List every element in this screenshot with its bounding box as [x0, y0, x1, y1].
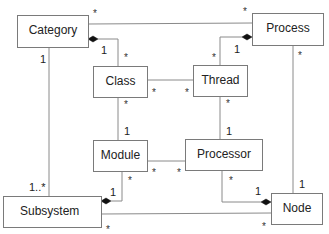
mult-module-processor-a: * — [152, 168, 156, 178]
composition-diamond-process — [242, 34, 252, 40]
class-name: Class — [105, 74, 135, 97]
mult-class-thread-b: * — [185, 88, 189, 98]
mult-class-thread-a: * — [152, 88, 156, 98]
mult-category-class-star: * — [124, 53, 128, 63]
composition-diamond-subsystem — [101, 198, 111, 204]
class-category: Category — [17, 15, 89, 48]
mult-category-subsystem-1: 1 — [40, 54, 46, 65]
class-node: Node — [271, 193, 323, 225]
mult-category-process-a: * — [93, 9, 97, 19]
class-process: Process — [252, 13, 324, 46]
mult-node-processor-star: * — [229, 176, 233, 186]
class-name: Category — [29, 23, 78, 47]
class-class: Class — [93, 66, 148, 98]
mult-category-subsystem-many: 1..* — [29, 182, 46, 193]
class-name: Subsystem — [20, 204, 79, 227]
class-thread: Thread — [193, 65, 248, 97]
class-processor: Processor — [185, 139, 263, 171]
class-module: Module — [93, 140, 148, 172]
mult-category-process-b: * — [243, 7, 247, 17]
class-name: Module — [101, 148, 140, 171]
class-name: Processor — [197, 147, 251, 170]
mult-category-class-1: 1 — [101, 45, 107, 56]
composition-diamond-node — [261, 199, 271, 205]
mult-process-thread-star: * — [212, 53, 216, 63]
mult-class-module-star: * — [124, 100, 128, 110]
mult-subsystem-module-1: 1 — [110, 187, 116, 198]
mult-process-thread-1: 1 — [234, 44, 240, 55]
class-name: Thread — [201, 73, 239, 96]
mult-class-module-1: 1 — [124, 126, 130, 137]
mult-thread-processor-1: 1 — [226, 126, 232, 137]
class-subsystem: Subsystem — [3, 196, 102, 228]
mult-subsystem-node-a: * — [106, 225, 110, 234]
class-name: Process — [266, 21, 309, 45]
mult-module-processor-b: * — [177, 168, 181, 178]
mult-subsystem-module-star: * — [128, 176, 132, 186]
mult-subsystem-node-b: * — [262, 222, 266, 232]
mult-node-processor-1: 1 — [255, 186, 261, 197]
mult-thread-processor-star: * — [226, 99, 230, 109]
mult-process-node-1: 1 — [299, 179, 305, 190]
mult-process-node-star: * — [298, 51, 302, 61]
composition-diamond-category — [88, 36, 98, 42]
class-name: Node — [283, 201, 312, 224]
